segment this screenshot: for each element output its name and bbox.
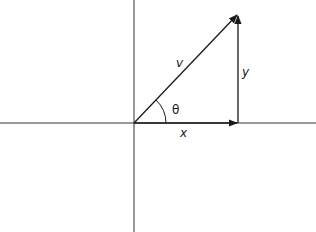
label-v: v <box>176 56 184 70</box>
label-y: y <box>241 65 250 79</box>
vector-v <box>134 15 237 123</box>
label-theta: θ <box>172 103 179 117</box>
vector-diagram: v y x θ <box>0 0 316 232</box>
angle-arc <box>156 100 166 123</box>
label-x: x <box>179 126 188 140</box>
